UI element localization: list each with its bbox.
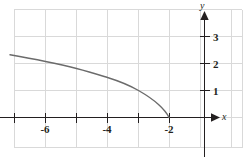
x-tick-label-minus-6: -6 bbox=[40, 124, 49, 135]
y-tick-label-3: 3 bbox=[213, 32, 219, 43]
graph-figure: -6 -4 -2 1 2 3 x y bbox=[0, 0, 246, 157]
function-curve bbox=[10, 55, 169, 118]
coordinate-plane bbox=[0, 0, 246, 157]
x-tick-label-minus-4: -4 bbox=[102, 124, 111, 135]
y-axis-arrowhead bbox=[200, 11, 208, 20]
x-axis-arrowhead bbox=[211, 113, 220, 121]
x-tick-label-minus-2: -2 bbox=[164, 124, 173, 135]
y-tick-label-1: 1 bbox=[213, 86, 219, 97]
y-tick-label-2: 2 bbox=[213, 59, 219, 70]
x-axis-label: x bbox=[222, 112, 226, 122]
y-axis-label: y bbox=[200, 1, 204, 11]
